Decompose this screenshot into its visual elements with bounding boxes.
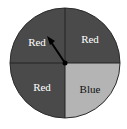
section-label-top-right: Red (81, 33, 99, 45)
section-label-bottom-right: Blue (80, 83, 101, 95)
section-label-bottom-left: Red (33, 81, 51, 93)
spinner-diagram: Red Red Red Blue (0, 0, 127, 129)
section-label-top-left: Red (28, 36, 46, 48)
